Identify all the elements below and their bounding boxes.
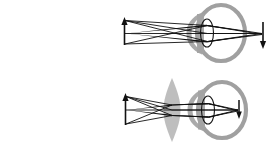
panel-corrected-hyperopic-eye	[122, 78, 246, 142]
image-arrow-head-icon	[260, 41, 266, 49]
ray-bundle	[126, 97, 238, 125]
ray-wedge-right-lower	[209, 110, 239, 118]
image-arrow-head-icon	[236, 112, 242, 120]
ray-diagram-canvas	[0, 0, 277, 146]
ray-diagram-figure: Hyperopia correction diagram Two ray dia…	[0, 0, 277, 146]
ray-wedge-upper	[126, 25, 207, 34]
panel-uncorrected-hyperopic-eye	[121, 5, 266, 61]
ray-wedge-right-upper	[207, 25, 262, 34]
